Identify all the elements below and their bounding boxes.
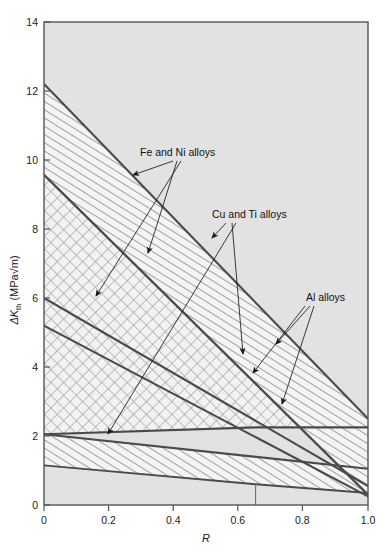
y-tick-label-12: 12 [26,85,38,97]
y-tick-label-8: 8 [32,223,38,235]
y-axis-title-units: (MPa√m) [8,255,20,303]
x-tick-label-08: 0.8 [295,514,310,526]
x-tick-label-0: 0 [41,514,47,526]
annotation-label-fe-ni: Fe and Ni alloys [140,146,215,158]
annotation-label-al: Al alloys [306,291,345,303]
chart-svg: 0 2 4 6 8 10 12 14 0 0.2 0.4 0.6 0.8 1.0 [0,0,392,557]
y-axis-title-main: ΔK [8,309,20,325]
y-tick-label-2: 2 [32,430,38,442]
annotation-label-cu-ti: Cu and Ti alloys [212,208,287,220]
y-tick-label-6: 6 [32,292,38,304]
fatigue-threshold-chart: 0 2 4 6 8 10 12 14 0 0.2 0.4 0.6 0.8 1.0 [0,0,392,557]
x-tick-label-10: 1.0 [361,514,376,526]
x-axis-title: R [202,532,210,544]
y-tick-label-0: 0 [32,499,38,511]
y-tick-label-4: 4 [32,361,38,373]
x-tick-label-02: 0.2 [101,514,116,526]
x-tick-label-06: 0.6 [230,514,245,526]
x-tick-label-04: 0.4 [166,514,181,526]
y-tick-label-10: 10 [26,154,38,166]
y-tick-label-14: 14 [26,16,38,28]
